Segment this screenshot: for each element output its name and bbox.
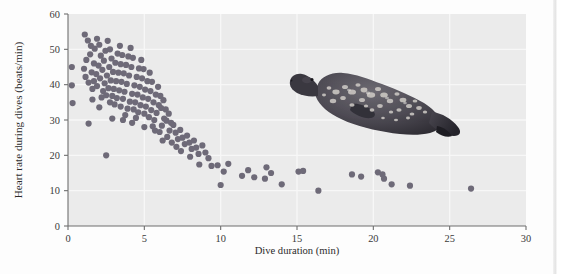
data-point <box>145 96 151 102</box>
data-point <box>124 81 130 87</box>
data-point <box>127 99 133 105</box>
data-point <box>153 110 159 116</box>
data-point <box>215 162 221 168</box>
data-point <box>166 128 172 134</box>
data-point <box>127 45 133 51</box>
data-point <box>149 79 155 85</box>
data-point <box>110 69 116 75</box>
data-point <box>133 115 139 121</box>
y-tick-label: 20 <box>50 150 60 161</box>
data-point <box>193 144 199 150</box>
data-point <box>118 61 124 67</box>
data-point <box>202 149 208 155</box>
data-point <box>135 109 141 115</box>
data-point <box>137 84 143 90</box>
data-point <box>169 140 175 146</box>
data-point <box>111 86 117 92</box>
data-point <box>225 161 231 167</box>
data-point <box>96 104 102 110</box>
data-point <box>121 70 127 76</box>
data-point <box>300 168 306 174</box>
data-point <box>109 115 115 121</box>
data-point <box>199 142 205 148</box>
data-point <box>263 164 269 170</box>
data-point <box>205 155 211 161</box>
data-point <box>208 163 214 169</box>
data-point <box>105 85 111 91</box>
data-point <box>239 173 245 179</box>
data-point <box>147 70 153 76</box>
data-point <box>166 111 172 117</box>
data-point <box>358 173 364 179</box>
data-point <box>128 64 134 70</box>
data-point <box>146 114 152 120</box>
x-tick-label: 25 <box>444 233 454 244</box>
data-point <box>106 64 112 70</box>
data-point <box>108 77 114 83</box>
data-point <box>389 181 395 187</box>
data-point <box>120 96 126 102</box>
data-point <box>83 57 89 63</box>
data-point <box>103 92 109 98</box>
seal-nose <box>291 80 293 82</box>
data-point <box>94 83 100 89</box>
data-point <box>87 51 93 57</box>
data-point <box>105 38 111 44</box>
data-point <box>381 176 387 182</box>
data-point <box>81 66 87 72</box>
data-point <box>94 36 100 42</box>
data-point <box>82 31 88 37</box>
data-point <box>131 82 137 88</box>
y-axis-title: Heart rate during dives (beats/min) <box>12 41 25 198</box>
data-point <box>150 99 156 105</box>
data-point <box>132 99 138 105</box>
data-point <box>184 132 190 138</box>
data-point <box>118 103 124 109</box>
x-tick-label: 30 <box>521 233 531 244</box>
data-point <box>138 57 144 63</box>
data-point <box>177 127 183 133</box>
data-point <box>69 100 75 106</box>
data-point <box>147 88 153 94</box>
data-point <box>218 182 224 188</box>
data-point <box>279 181 285 187</box>
data-point <box>187 154 193 160</box>
data-point <box>152 128 158 134</box>
data-point <box>69 64 75 70</box>
data-point <box>141 124 147 130</box>
data-point <box>101 58 107 64</box>
data-point <box>99 67 105 73</box>
data-point <box>349 171 355 177</box>
y-tick-label: 60 <box>50 9 60 20</box>
data-point <box>69 82 75 88</box>
y-tick-label: 30 <box>50 115 60 126</box>
data-point <box>178 148 184 154</box>
data-point <box>118 79 124 85</box>
data-point <box>102 80 108 86</box>
seal-snout <box>302 77 312 83</box>
y-tick-label: 50 <box>50 44 60 55</box>
data-point <box>221 168 227 174</box>
x-tick-label: 15 <box>292 233 302 244</box>
x-tick-label: 0 <box>65 233 70 244</box>
data-point <box>160 97 166 103</box>
data-point <box>129 91 135 97</box>
data-point <box>159 123 165 129</box>
data-point <box>139 75 145 81</box>
y-tick-label: 0 <box>55 221 60 232</box>
data-point <box>89 96 95 102</box>
data-point <box>262 176 268 182</box>
x-tick-label: 5 <box>142 233 147 244</box>
data-point <box>122 112 128 118</box>
x-tick-label: 10 <box>215 233 225 244</box>
data-point <box>129 120 135 126</box>
data-point <box>173 144 179 150</box>
data-point <box>151 117 157 123</box>
data-point <box>117 43 123 49</box>
data-point <box>124 106 130 112</box>
data-point <box>160 137 166 143</box>
data-point <box>140 66 146 72</box>
data-point <box>103 152 109 158</box>
x-axis-ticks: 051015202530 <box>65 226 531 244</box>
data-point <box>119 52 125 58</box>
